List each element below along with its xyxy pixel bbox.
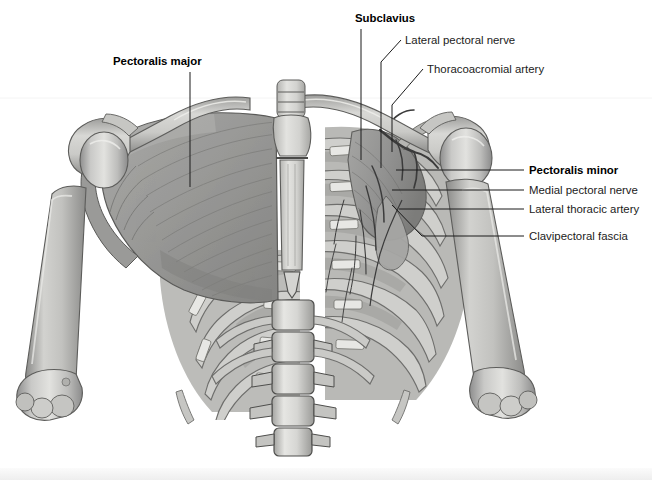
label-clavipectoral-fascia: Clavipectoral fascia xyxy=(529,230,628,242)
anatomy-illustration: Pectoralis major Subclavius Lateral pect… xyxy=(0,0,652,480)
left-capitulum xyxy=(16,393,34,411)
label-pectoralis-major: Pectoralis major xyxy=(113,55,202,67)
manubrium xyxy=(273,115,311,156)
left-olecranon-fossa xyxy=(62,378,70,386)
right-capitulum xyxy=(519,391,537,409)
vertebra xyxy=(272,300,314,330)
bottom-band xyxy=(0,468,652,480)
right-medial-epicondyle xyxy=(478,393,502,415)
left-medial-epicondyle xyxy=(50,395,74,417)
anatomy-figure: Pectoralis major Subclavius Lateral pect… xyxy=(0,0,652,480)
label-thoracoacromial-artery: Thoracoacromial artery xyxy=(427,63,544,75)
label-subclavius: Subclavius xyxy=(355,12,415,24)
label-pectoralis-minor: Pectoralis minor xyxy=(529,164,619,176)
sternal-body xyxy=(280,160,304,270)
label-medial-pectoral-nerve: Medial pectoral nerve xyxy=(529,184,638,196)
label-lateral-pectoral-nerve: Lateral pectoral nerve xyxy=(405,34,515,46)
label-lateral-thoracic-artery: Lateral thoracic artery xyxy=(529,203,639,215)
